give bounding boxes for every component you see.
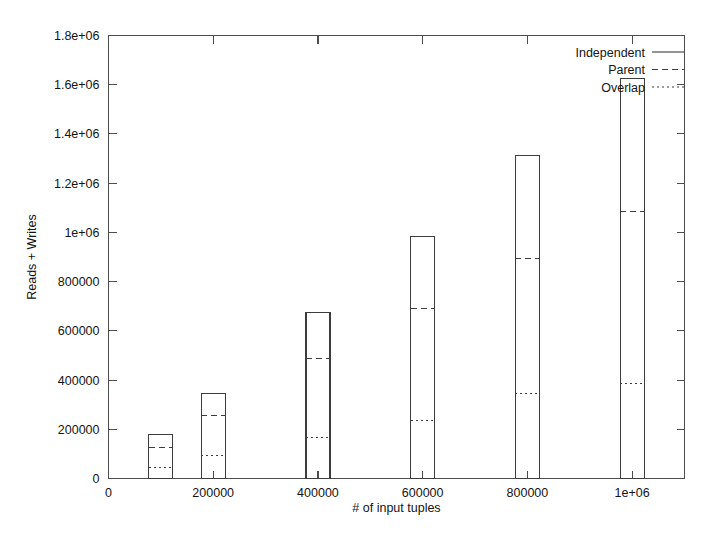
bar-independent-outline [411,236,435,478]
bar-group [620,78,644,478]
y-tick-label: 1.8e+06 [54,29,100,43]
y-tick-label: 1e+06 [64,226,99,240]
bar-independent-outline [620,78,644,478]
y-tick-label: 600000 [58,324,100,338]
legend-label-parent: Parent [608,63,645,77]
x-tick-label: 0 [105,486,112,500]
y-tick-label: 800000 [58,275,100,289]
bar-group [201,394,225,479]
legend-label-overlap: Overlap [601,81,645,95]
x-tick-label: 800000 [507,486,549,500]
x-tick-label: 400000 [297,486,339,500]
axis-frame [109,36,685,479]
y-tick-label: 1.2e+06 [54,177,100,191]
bar-independent-outline [306,312,330,478]
y-tick-label: 400000 [58,374,100,388]
plot-frame [109,36,685,479]
chart-container: 02000004000006000008000001e+061.2e+061.4… [0,0,721,533]
y-tick-label: 200000 [58,423,100,437]
bar-group [411,236,435,478]
x-tick-label: 600000 [402,486,444,500]
legend-label-independent: Independent [575,46,645,60]
bar-independent-outline [149,434,173,478]
chart-legend: IndependentParentOverlap [575,46,684,95]
y-tick-label: 1.6e+06 [54,78,100,92]
x-axis-title: # of input tuples [352,501,440,515]
y-tick-label: 1.4e+06 [54,127,100,141]
bar-group [149,434,173,478]
bars-group [149,78,644,478]
bar-group [306,312,330,478]
bar-independent-outline [201,394,225,479]
x-tick-label: 200000 [192,486,234,500]
y-tick-label: 0 [93,472,100,486]
reads-writes-bar-chart: 02000004000006000008000001e+061.2e+061.4… [0,0,721,533]
x-tick-label: 1e+06 [615,486,650,500]
bar-group [515,155,539,478]
y-axis-title: Reads + Writes [25,214,39,300]
y-axis-ticks: 02000004000006000008000001e+061.2e+061.4… [54,29,685,486]
bar-independent-outline [515,155,539,478]
x-axis-ticks: 02000004000006000008000001e+06 [105,36,650,500]
